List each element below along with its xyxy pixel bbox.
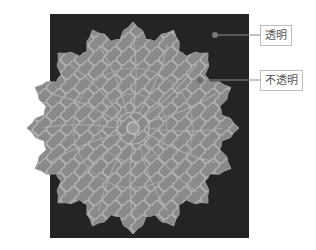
label-transparent: 透明 [260,25,292,46]
callout-dot [197,77,203,83]
medallion [27,22,239,234]
callout-transparent [212,32,260,38]
label-opaque: 不透明 [260,70,303,91]
callout-dot [212,32,218,38]
